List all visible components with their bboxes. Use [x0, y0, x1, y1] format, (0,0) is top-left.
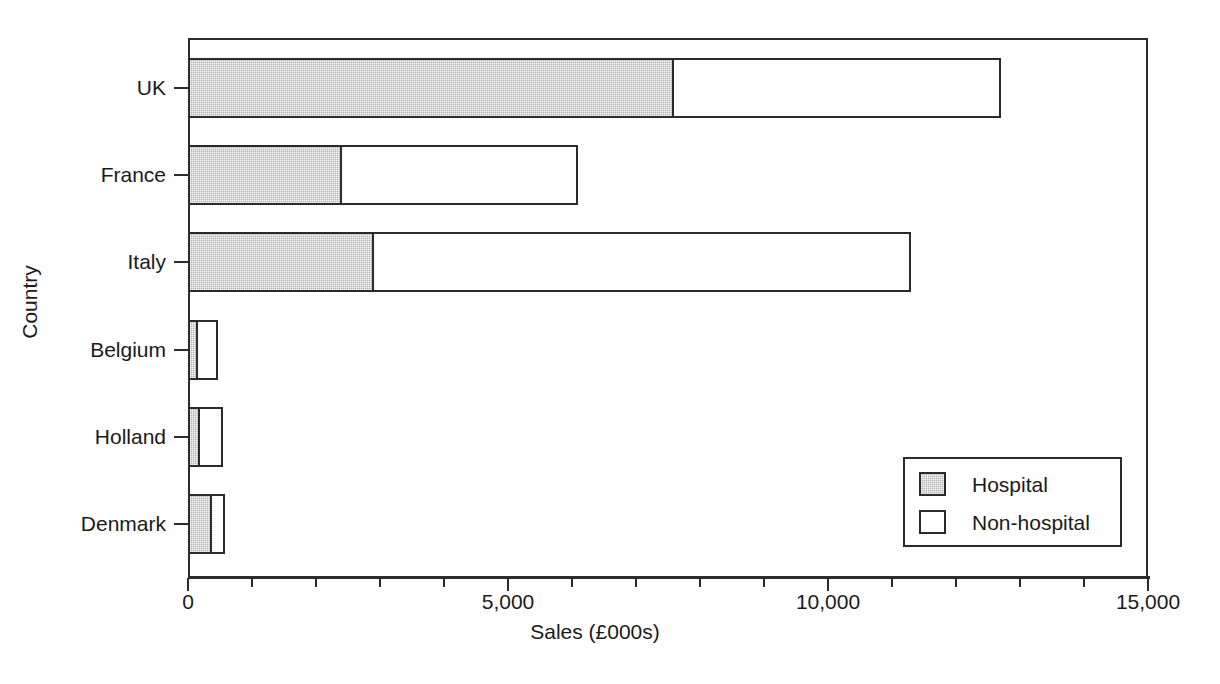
legend-label-hospital: Hospital — [972, 474, 1048, 495]
bar-segment-non-hospital — [372, 232, 912, 292]
y-axis-tick-label-holland: Holland — [0, 426, 166, 447]
bar-chart: UKFranceItalyBelgiumHollandDenmark 05,00… — [0, 0, 1220, 684]
x-axis-tick-label: 5,000 — [482, 590, 535, 614]
x-axis-tick-label: 10,000 — [796, 590, 860, 614]
bar-segment-hospital — [188, 145, 342, 205]
x-axis-tick-label: 0 — [182, 590, 194, 614]
y-axis-tick-label-uk: UK — [0, 77, 166, 98]
y-axis-tick-mark — [174, 87, 188, 89]
x-axis-title-text: Sales (£000s) — [530, 620, 660, 644]
legend-item-hospital: Hospital — [919, 468, 1048, 500]
x-axis-line — [188, 576, 1150, 579]
x-axis-minor-tick — [1083, 578, 1085, 587]
legend-item-non-hospital: Non-hospital — [919, 506, 1090, 538]
x-axis-tick-label: 15,000 — [1116, 590, 1180, 614]
x-axis-minor-tick — [315, 578, 317, 587]
y-axis-tick-label-france: France — [0, 164, 166, 185]
y-axis-tick-mark — [174, 436, 188, 438]
y-axis-title: Country — [18, 212, 42, 392]
y-axis-tick-mark — [174, 174, 188, 176]
y-axis-tick-label-denmark: Denmark — [0, 513, 166, 534]
y-axis-tick-mark — [174, 523, 188, 525]
x-axis-minor-tick — [1019, 578, 1021, 587]
bar-segment-hospital — [188, 494, 212, 554]
y-axis-tick-mark — [174, 261, 188, 263]
x-axis-minor-tick — [763, 578, 765, 587]
legend-swatch-hospital-icon — [919, 472, 946, 496]
bar-segment-non-hospital — [198, 407, 223, 467]
bar-segment-non-hospital — [196, 320, 218, 380]
x-axis-minor-tick — [699, 578, 701, 587]
bar-segment-hospital — [188, 58, 674, 118]
x-axis-minor-tick — [891, 578, 893, 587]
legend: Hospital Non-hospital — [903, 457, 1122, 547]
y-axis-tick-mark — [174, 349, 188, 351]
bar-segment-non-hospital — [672, 58, 1000, 118]
x-axis-minor-tick — [955, 578, 957, 587]
x-axis-minor-tick — [571, 578, 573, 587]
bar-segment-non-hospital — [340, 145, 579, 205]
x-axis-minor-tick — [251, 578, 253, 587]
x-axis-minor-tick — [379, 578, 381, 587]
x-axis-minor-tick — [443, 578, 445, 587]
bar-segment-non-hospital — [210, 494, 225, 554]
x-axis-minor-tick — [635, 578, 637, 587]
legend-swatch-non-hospital-icon — [919, 510, 946, 534]
x-axis-title: Sales (£000s) — [0, 620, 1220, 644]
bar-segment-hospital — [188, 232, 374, 292]
legend-label-non-hospital: Non-hospital — [972, 512, 1090, 533]
